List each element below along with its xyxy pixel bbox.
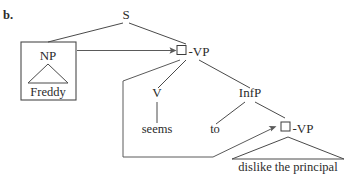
node-infp-label: InfP (239, 85, 261, 100)
node-np-label: NP (40, 48, 57, 63)
branch-infp-to-vp-low (255, 102, 285, 118)
branch-s-to-vp (129, 23, 186, 44)
branch-vp-to-infp (199, 60, 250, 88)
node-vp-low-label: -VP (293, 121, 314, 136)
syntax-tree-diagram: b. S NP Freddy -VP (0, 0, 345, 174)
branch-s-to-np (48, 23, 123, 42)
node-v-label: V (152, 85, 162, 100)
np-movement-arrow (77, 47, 177, 53)
np-terminal-label: Freddy (30, 85, 66, 99)
branch-vp-to-v (158, 60, 186, 88)
branch-infp-to-to (216, 102, 245, 124)
trace-square-lower (281, 122, 290, 131)
vp-low-terminal-label: dislike the principal (238, 160, 338, 174)
item-letter-label: b. (3, 8, 13, 22)
node-vp-top-label: -VP (189, 44, 210, 59)
terminal-seems-label: seems (142, 122, 173, 136)
vp-low-triangle-icon (232, 137, 344, 159)
np-triangle-icon (28, 64, 68, 83)
vp-movement-arrow (123, 60, 277, 157)
node-s-label: S (122, 7, 129, 22)
trace-square-upper (177, 46, 186, 55)
terminal-to-label: to (210, 122, 220, 136)
figure-canvas: b. S NP Freddy -VP (0, 0, 345, 174)
